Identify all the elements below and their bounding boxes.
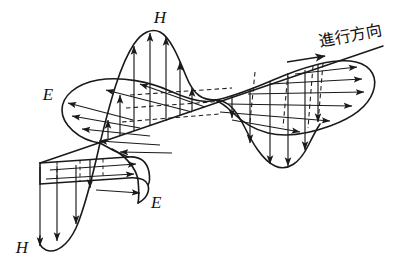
label-e-bottom: E (150, 193, 162, 212)
e-lower-lobe-bottom-rim (40, 178, 149, 203)
e-vector-left-5 (120, 152, 172, 153)
e-vector-lower-1 (50, 164, 136, 170)
e-field-right-lobe-curve (215, 61, 375, 135)
e-vector-right-3 (248, 92, 364, 94)
e-dashed-guide-3 (122, 114, 219, 122)
e-vector-left-4 (99, 141, 160, 145)
em-wave-figure: H E E H 進行方向 (0, 0, 407, 268)
e-vector-right-4 (228, 104, 352, 106)
label-h-top: H (153, 8, 168, 27)
travel-direction-arrow-icon (287, 56, 325, 62)
label-travel-direction: 進行方向 (317, 20, 383, 51)
e-vector-lower-3 (96, 190, 140, 193)
em-wave-diagram: H E E H 進行方向 (0, 0, 407, 268)
e-vector-left-3 (82, 129, 150, 136)
propagation-axis-line (40, 46, 383, 163)
label-e-left: E (42, 85, 54, 104)
propagation-axis-group (40, 46, 383, 163)
h-field-wave-group (100, 31, 320, 168)
e-dashed-guide-1 (130, 88, 232, 95)
label-h-bottom: H (15, 238, 30, 257)
e-field-left-lobe-group (62, 79, 232, 157)
e-right-dash-2 (283, 73, 288, 127)
e-right-dash-4 (318, 63, 323, 124)
e-field-right-lobe-group (215, 61, 375, 135)
travel-direction-group (287, 56, 325, 62)
